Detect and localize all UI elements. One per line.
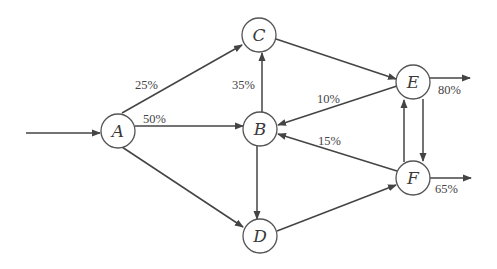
node-b-label: B (253, 119, 267, 139)
label-e-to-b: 10% (317, 92, 340, 106)
label-a-to-b: 50% (143, 112, 166, 126)
node-c: C (242, 18, 276, 52)
edge-a-to-d (122, 147, 243, 227)
node-a: A (101, 114, 135, 148)
edge-d-to-f (277, 185, 396, 231)
label-a-to-c: 25% (135, 78, 158, 92)
label-e-output: 80% (438, 83, 461, 97)
label-f-to-b: 15% (318, 134, 341, 148)
flow-diagram: A B C D E F 25% 50% 35% 10% 15% 80% 65% (0, 0, 497, 269)
node-b: B (243, 112, 277, 146)
node-f-label: F (406, 168, 420, 188)
node-c-label: C (252, 25, 265, 45)
node-a-label: A (110, 121, 124, 141)
edge-c-to-e (276, 39, 396, 79)
node-f: F (396, 161, 430, 195)
node-d: D (243, 219, 277, 253)
node-e: E (396, 65, 430, 99)
label-b-to-c: 35% (232, 78, 255, 92)
node-e-label: E (406, 72, 420, 92)
node-d-label: D (252, 226, 267, 246)
label-f-output: 65% (435, 182, 458, 196)
